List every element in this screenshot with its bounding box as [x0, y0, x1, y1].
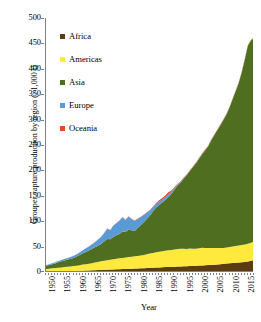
x-tick-label: 2010	[233, 276, 241, 292]
x-tick-mark	[164, 273, 165, 275]
x-tick-mark	[244, 273, 245, 275]
x-tick-mark	[137, 273, 138, 275]
y-tick-label: 200	[1, 166, 41, 174]
x-tick-mark	[213, 273, 214, 275]
x-tick-mark	[118, 273, 119, 275]
y-tick-mark	[41, 120, 44, 121]
x-tick-mark	[106, 273, 107, 275]
x-tick-mark	[158, 273, 159, 275]
x-tick-label: 1975	[125, 276, 133, 292]
x-tick-mark	[103, 273, 104, 275]
x-tick-label: 2005	[217, 276, 225, 292]
x-tick-mark	[183, 273, 184, 275]
x-tick-label: 1960	[80, 276, 88, 292]
x-tick-mark	[192, 273, 193, 275]
legend-swatch-icon	[60, 57, 65, 62]
x-tick-mark	[180, 273, 181, 275]
x-tick-mark	[250, 273, 251, 275]
x-tick-label: 1990	[171, 276, 179, 292]
x-tick-mark	[45, 273, 46, 275]
x-tick-mark	[115, 273, 116, 275]
x-tick-mark	[198, 273, 199, 275]
x-tick-mark	[57, 273, 58, 275]
y-tick-mark	[41, 247, 44, 248]
y-tick-mark	[41, 271, 44, 272]
y-tick-label: 50	[1, 243, 41, 251]
x-tick-mark	[167, 273, 168, 275]
x-tick-mark	[229, 273, 230, 275]
chart-legend: AfricaAmericasAsiaEuropeOceania	[60, 25, 150, 140]
x-tick-mark	[225, 273, 226, 275]
x-tick-mark	[69, 273, 70, 275]
x-tick-label: 1995	[187, 276, 195, 292]
legend-item-oceania[interactable]: Oceania	[60, 117, 150, 140]
x-tick-mark	[204, 273, 205, 275]
x-tick-mark	[219, 273, 220, 275]
x-tick-mark	[73, 273, 74, 275]
x-tick-mark	[140, 273, 141, 275]
legend-swatch-icon	[60, 103, 65, 108]
y-tick-label: 250	[1, 141, 41, 149]
x-tick-mark	[134, 273, 135, 275]
x-tick-mark	[100, 273, 101, 275]
legend-item-europe[interactable]: Europe	[60, 94, 150, 117]
x-tick-mark	[195, 273, 196, 275]
x-tick-mark	[201, 273, 202, 275]
y-tick-label: 300	[1, 116, 41, 124]
x-tick-label: 2015	[248, 276, 256, 292]
y-tick-label: 350	[1, 90, 41, 98]
y-tick-mark	[41, 196, 44, 197]
legend-item-asia[interactable]: Asia	[60, 71, 150, 94]
y-tick-mark	[41, 43, 44, 44]
x-tick-mark	[143, 273, 144, 275]
legend-label: Asia	[69, 78, 85, 87]
y-tick-mark	[41, 221, 44, 222]
x-tick-mark	[238, 273, 239, 275]
x-axis-ticks: 1950195519601965197019751980198519901995…	[45, 273, 253, 321]
x-tick-label: 2000	[202, 276, 210, 292]
x-tick-mark	[63, 273, 64, 275]
x-tick-mark	[51, 273, 52, 275]
x-tick-mark	[161, 273, 162, 275]
x-tick-mark	[48, 273, 49, 275]
y-tick-mark	[41, 69, 44, 70]
y-tick-label: 100	[1, 217, 41, 225]
x-tick-mark	[79, 273, 80, 275]
legend-swatch-icon	[60, 80, 65, 85]
x-tick-mark	[207, 273, 208, 275]
x-tick-mark	[149, 273, 150, 275]
y-tick-label: 0	[1, 268, 41, 276]
x-tick-label: 1965	[95, 276, 103, 292]
x-tick-mark	[112, 273, 113, 275]
x-tick-mark	[152, 273, 153, 275]
x-tick-mark	[125, 273, 126, 275]
x-axis-title: Year	[45, 302, 253, 312]
x-tick-mark	[60, 273, 61, 275]
x-tick-mark	[222, 273, 223, 275]
x-tick-mark	[177, 273, 178, 275]
x-tick-mark	[76, 273, 77, 275]
x-tick-mark	[155, 273, 156, 275]
x-tick-mark	[247, 273, 248, 275]
y-tick-mark	[41, 145, 44, 146]
x-tick-mark	[54, 273, 55, 275]
y-axis-ticks: 500450400350300250200150100500	[0, 18, 41, 272]
y-tick-label: 450	[1, 39, 41, 47]
x-tick-mark	[189, 273, 190, 275]
chart-figure: Grouper capture production by region (×1…	[0, 0, 261, 322]
y-tick-mark	[41, 94, 44, 95]
legend-label: Americas	[69, 55, 102, 64]
x-tick-mark	[85, 273, 86, 275]
y-tick-mark	[41, 170, 44, 171]
x-tick-mark	[88, 273, 89, 275]
legend-label: Africa	[69, 32, 91, 41]
x-tick-mark	[146, 273, 147, 275]
x-tick-mark	[91, 273, 92, 275]
legend-item-africa[interactable]: Africa	[60, 25, 150, 48]
legend-item-americas[interactable]: Americas	[60, 48, 150, 71]
x-tick-mark	[97, 273, 98, 275]
x-tick-mark	[109, 273, 110, 275]
x-tick-label: 1950	[49, 276, 57, 292]
x-tick-mark	[235, 273, 236, 275]
x-tick-mark	[216, 273, 217, 275]
